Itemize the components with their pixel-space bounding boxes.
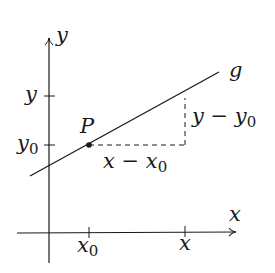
- dx-label: x − x0: [103, 149, 167, 176]
- line-g-label: g: [229, 58, 242, 82]
- dy-label: y − y0: [191, 104, 256, 131]
- x-axis: [17, 232, 236, 233]
- y-axis-label: y: [55, 23, 69, 47]
- point-p: [86, 142, 92, 148]
- slope-diagram: y x x0 x y y0 g P x − x0 y − y0: [0, 0, 275, 273]
- tick-label-y0: y0: [16, 131, 38, 158]
- tick-label-x0: x0: [77, 233, 98, 260]
- tick-label-x: x: [179, 231, 191, 255]
- tick-label-y: y: [24, 82, 38, 106]
- x-axis-label: x: [229, 202, 241, 226]
- point-p-label: P: [79, 114, 95, 138]
